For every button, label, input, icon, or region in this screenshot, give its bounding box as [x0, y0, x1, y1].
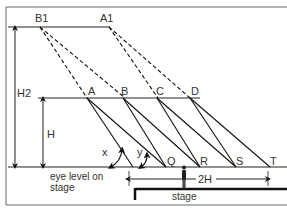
label-D: D — [191, 85, 199, 97]
label-Q: Q — [167, 155, 176, 167]
eye-level-label-line2: stage — [50, 182, 75, 193]
angle-x-arc — [111, 150, 122, 167]
label-T: T — [270, 155, 277, 167]
label-R: R — [200, 155, 208, 167]
person-icon — [182, 166, 186, 190]
label-y: y — [137, 146, 143, 158]
label-H2: H2 — [17, 87, 31, 99]
dashed-sightlines — [40, 27, 190, 98]
label-C: C — [156, 85, 164, 97]
stage-label: stage — [172, 191, 197, 202]
label-x: x — [102, 146, 108, 158]
eye-level-label-line1: eye level on — [50, 171, 103, 182]
label-S: S — [236, 155, 243, 167]
label-H: H — [47, 128, 55, 140]
sightline-diagram: B1 A1 A B C D Q R S T H2 H x y 2H eye le… — [0, 0, 287, 212]
frame — [6, 7, 287, 205]
label-B: B — [121, 85, 128, 97]
label-A1: A1 — [100, 12, 113, 24]
stage-outline — [135, 188, 287, 200]
label-2H: 2H — [198, 173, 212, 185]
label-A: A — [88, 85, 96, 97]
label-B1: B1 — [35, 12, 48, 24]
